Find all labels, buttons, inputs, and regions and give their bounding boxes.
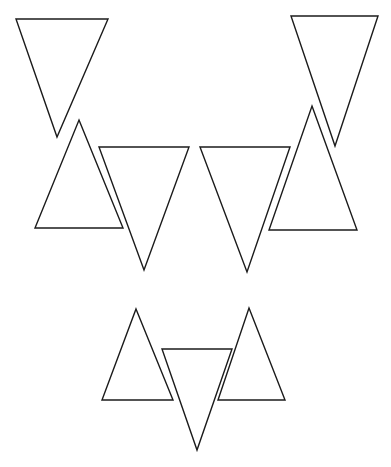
figure-background [0, 0, 391, 467]
figure-canvas [0, 0, 391, 467]
triangle-figure [0, 0, 391, 467]
